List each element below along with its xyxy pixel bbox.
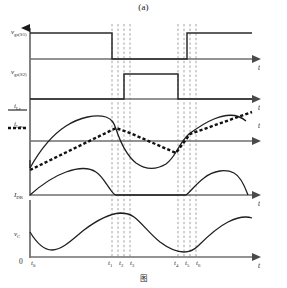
label-vc: vC (14, 230, 20, 239)
label-origin-zero: 0 (19, 257, 23, 266)
figure-caption: 图 (0, 272, 287, 283)
axis-label-t-panel5: t (258, 261, 261, 270)
vc-waveform (30, 213, 252, 252)
figure-container: (a) t (0, 0, 287, 288)
ilr-waveform (30, 115, 246, 168)
idr-waveform (30, 169, 248, 195)
axis-label-t-panel2: t (258, 103, 261, 112)
marker-t0: t0 (31, 259, 36, 268)
marker-t4: t4 (174, 259, 179, 268)
vgs-s1-waveform (30, 33, 252, 59)
marker-t6: t6 (196, 259, 201, 268)
axis-label-t-panel1: t (258, 63, 261, 72)
label-idr: IDR (13, 191, 24, 200)
axis-label-t-panel4: t (258, 199, 261, 208)
panel-vc: t (30, 200, 261, 270)
label-ilm: iLm (14, 120, 23, 129)
panel-currents: t (8, 100, 261, 170)
panel-vgs-s2: t (30, 60, 261, 112)
label-vgs-s2: vgs(S2) (11, 68, 27, 77)
label-vgs-s1: vgs(S1) (11, 28, 27, 37)
marker-t3: t3 (130, 259, 135, 268)
marker-t1: t1 (108, 259, 113, 268)
marker-t5: t5 (185, 259, 190, 268)
waveform-figure: t t t t (0, 0, 287, 288)
marker-t2: t2 (119, 259, 124, 268)
axis-label-t-panel3: t (258, 121, 261, 130)
vgs-s2-waveform (30, 74, 252, 99)
panel-vgs-s1: t (30, 28, 261, 72)
label-ilr: iLr (14, 102, 21, 111)
